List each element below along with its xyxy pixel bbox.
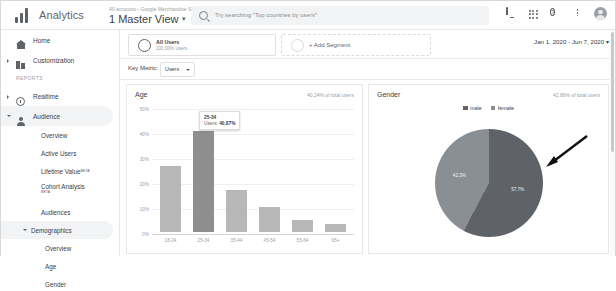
sidebar-subitem-label: Audiences [41, 209, 70, 216]
chart-y-axis-label: 50% [135, 107, 149, 112]
key-metric-bar: Key Metric: Users [120, 59, 615, 80]
chart-y-axis-label: 40% [135, 132, 149, 137]
chart-bar-wrapper [255, 109, 284, 232]
chart-y-axis-label: 20% [135, 182, 149, 187]
chart-bars [154, 109, 352, 232]
tooltip-metric-value: 40.87% [219, 121, 235, 126]
analytics-logo-icon [15, 8, 33, 23]
chevron-down-icon [7, 115, 11, 119]
sidebar-item-lifetime-value[interactable]: Lifetime ValueBETA [1, 162, 119, 180]
chart-bar[interactable] [325, 224, 347, 232]
sidebar-item-audience[interactable]: Audience [1, 106, 113, 126]
gender-pie-chart[interactable] [435, 129, 543, 237]
chart-bar-wrapper [156, 109, 185, 232]
panel-subtitle: 40.24% of total users [307, 92, 354, 98]
date-range-label: Jan 1, 2020 - Jun 7, 2020 [534, 38, 604, 45]
clock-icon [16, 97, 25, 106]
sidebar-item-demographics-gender[interactable]: Gender [1, 275, 119, 291]
sidebar-item-active-users[interactable]: Active Users [1, 144, 119, 162]
chart-x-label: 45-54 [255, 238, 284, 243]
chart-x-axis-labels: 18-2425-3435-4445-5455-6465+ [154, 238, 352, 243]
account-avatar[interactable] [594, 7, 607, 20]
beta-badge: BETA [41, 190, 85, 194]
sidebar-item-customization[interactable]: Customization [1, 50, 119, 70]
panel-subtitle: 42.86% of total users [553, 92, 600, 98]
chart-bar[interactable] [259, 207, 281, 232]
chart-y-axis-label: 30% [135, 157, 149, 162]
date-range-picker[interactable]: Jan 1, 2020 - Jun 7, 2020 ▾ [534, 38, 609, 45]
chart-axis-line [152, 234, 354, 235]
chevron-down-icon: ▾ [606, 38, 609, 45]
sidebar-section-reports: REPORTS [1, 70, 119, 86]
legend-label: male [470, 105, 482, 111]
sidebar-item-label: Audience [33, 113, 60, 120]
main-content: All Users 100.00% Users + Add Segment Ja… [120, 30, 615, 256]
sidebar-subitem-label: Age [45, 263, 56, 270]
brand-title: Analytics [39, 9, 84, 21]
sidebar-item-demographics[interactable]: Demographics [1, 221, 113, 239]
segment-bar: All Users 100.00% Users + Add Segment Ja… [120, 30, 615, 59]
tooltip-metric-label: Users: [204, 121, 218, 126]
chart-bar[interactable] [292, 220, 314, 232]
pie-slice-label: 57.7% [511, 187, 524, 192]
chart-x-label: 35-44 [222, 238, 251, 243]
panels-row: Age 40.24% of total users 50%40%30%20%10… [120, 80, 615, 256]
scrollbar-thumb[interactable] [611, 32, 614, 152]
chart-bar[interactable] [160, 166, 182, 232]
sidebar-subitem-label: Overview [41, 132, 67, 139]
add-segment-button[interactable]: + Add Segment [281, 34, 431, 56]
beta-badge: BETA [80, 169, 89, 173]
sidebar-subitem-label: Lifetime Value [41, 168, 80, 175]
chart-bar-wrapper [321, 109, 350, 232]
sidebar-item-realtime[interactable]: Realtime [1, 86, 119, 106]
chart-bar[interactable] [226, 190, 248, 232]
chart-bar[interactable] [193, 131, 215, 232]
more-options-icon[interactable] [572, 8, 583, 19]
age-panel: Age 40.24% of total users 50%40%30%20%10… [126, 84, 363, 254]
annotation-arrow-icon [536, 133, 590, 173]
key-metric-select[interactable]: Users [160, 62, 195, 77]
view-selector-label: 1 Master View [109, 13, 179, 25]
sidebar-item-label: Customization [33, 57, 74, 64]
view-selector[interactable]: 1 Master View ▾ [109, 13, 186, 25]
sidebar-subitem-label: Cohort Analysis [41, 183, 85, 190]
legend-item[interactable]: male [463, 105, 482, 111]
sidebar-item-cohort-analysis[interactable]: Cohort Analysis BETA [1, 180, 119, 203]
sidebar-item-label: Home [33, 37, 50, 44]
search-placeholder: Try searching "Top countries by users" [215, 12, 317, 18]
chart-x-label: 65+ [321, 238, 350, 243]
help-icon[interactable]: ? [550, 8, 561, 19]
apps-grid-icon[interactable] [528, 8, 539, 19]
panel-title: Gender [377, 91, 400, 98]
vertical-scrollbar[interactable] [610, 30, 615, 256]
chevron-down-icon: ▾ [182, 15, 186, 22]
sidebar-item-home[interactable]: Home [1, 30, 119, 50]
chevron-down-icon [186, 69, 190, 71]
chevron-right-icon [7, 95, 9, 99]
notifications-bell-icon[interactable] [506, 8, 517, 19]
sidebar-item-audiences[interactable]: Audiences [1, 203, 119, 221]
home-icon [16, 40, 26, 50]
chevron-down-icon [23, 229, 27, 231]
search-input[interactable]: Try searching "Top countries by users" [191, 6, 489, 25]
sidebar-subitem-label: Active Users [41, 150, 76, 157]
legend-swatch [491, 106, 496, 111]
panel-title: Age [135, 91, 147, 98]
sidebar-item-demographics-age[interactable]: Age [1, 257, 119, 275]
top-bar-icons: ? [506, 7, 607, 20]
segment-ring-icon [138, 39, 151, 52]
sidebar-item-demographics-overview[interactable]: Overview [1, 239, 119, 257]
breadcrumb[interactable]: All accounts › Google Merchandise St... [109, 6, 197, 12]
sidebar-subitem-label: Demographics [31, 227, 72, 234]
chart-x-label: 55-64 [288, 238, 317, 243]
chevron-right-icon [7, 59, 9, 63]
segment-title: All Users [156, 39, 179, 45]
key-metric-label: Key Metric: [128, 65, 158, 71]
sidebar: Home Customization REPORTS Realtime Audi… [1, 30, 120, 256]
chart-y-axis-label: 10% [135, 207, 149, 212]
add-segment-ring-icon [291, 39, 304, 52]
chart-tooltip: 25-34 Users: 40.87% [199, 111, 240, 130]
sidebar-item-overview[interactable]: Overview [1, 126, 119, 144]
segment-all-users[interactable]: All Users 100.00% Users [128, 34, 276, 56]
legend-item[interactable]: female [491, 105, 514, 111]
